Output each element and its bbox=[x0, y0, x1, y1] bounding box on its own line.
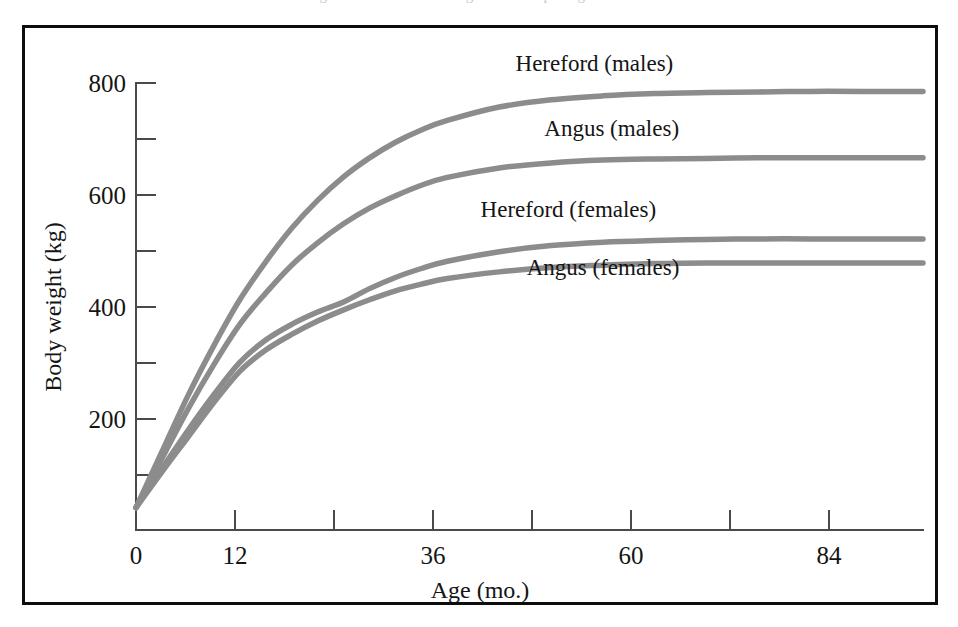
x-tick-label-60: 60 bbox=[619, 542, 644, 569]
y-axis-ticks bbox=[136, 83, 156, 475]
figure-frame: 800 600 400 200 0 12 36 60 bbox=[22, 25, 938, 605]
series-label-hereford-males: Hereford (males) bbox=[516, 51, 674, 76]
x-tick-label-36: 36 bbox=[421, 542, 446, 569]
x-tick-label-0: 0 bbox=[130, 542, 143, 569]
x-axis-tick-labels: 0 12 36 60 84 bbox=[130, 542, 842, 569]
x-axis-ticks bbox=[136, 510, 829, 530]
y-tick-label-200: 200 bbox=[89, 406, 127, 433]
y-tick-label-400: 400 bbox=[89, 294, 127, 321]
x-tick-label-12: 12 bbox=[223, 542, 248, 569]
curve-angus-females bbox=[136, 263, 923, 508]
y-tick-label-600: 600 bbox=[89, 182, 127, 209]
x-axis-title: Age (mo.) bbox=[431, 577, 530, 602]
y-tick-label-800: 800 bbox=[89, 70, 127, 97]
scan-artifact-label: nt of the growth curve and the age at wh… bbox=[262, 0, 697, 3]
y-axis-tick-labels: 800 600 400 200 bbox=[89, 70, 127, 433]
growth-curve-chart: 800 600 400 200 0 12 36 60 bbox=[25, 28, 935, 602]
x-tick-label-84: 84 bbox=[817, 542, 843, 569]
series-label-angus-males: Angus (males) bbox=[544, 116, 679, 141]
scan-artifact-text: nt of the growth curve and the age at wh… bbox=[0, 0, 958, 9]
curve-hereford-males bbox=[136, 91, 923, 507]
series-label-hereford-females: Hereford (females) bbox=[481, 197, 657, 222]
y-axis-title: Body weight (kg) bbox=[40, 222, 66, 391]
figure-root: nt of the growth curve and the age at wh… bbox=[0, 0, 958, 627]
series-label-angus-females: Angus (females) bbox=[527, 255, 680, 280]
data-curves bbox=[136, 91, 923, 507]
